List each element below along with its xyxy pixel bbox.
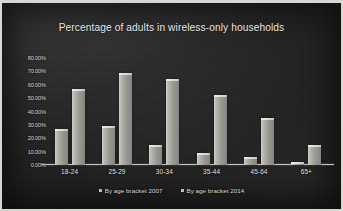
bar: [308, 145, 321, 165]
y-axis-tick-label: 30.00%: [28, 122, 46, 128]
x-axis-tick-label: 25-29: [108, 168, 125, 175]
legend-item[interactable]: By age bracket 2007: [99, 187, 163, 194]
legend-label: By age bracket 2014: [187, 187, 245, 194]
bar-group: [55, 58, 85, 165]
bar: [166, 79, 179, 165]
y-axis-tick-label: 40.00%: [28, 109, 46, 115]
bar-group: [291, 58, 321, 165]
bar-group: [102, 58, 132, 165]
bar-cap: [119, 73, 132, 75]
chart-title: Percentage of adults in wireless-only ho…: [2, 22, 341, 33]
chart-legend: By age bracket 2007By age bracket 2014: [2, 187, 341, 194]
bar: [72, 89, 85, 165]
y-axis-tick-label: 80.00%: [28, 55, 46, 61]
x-axis-line: [41, 164, 334, 165]
bar-cap: [72, 89, 85, 91]
x-axis-tick-label: 30-34: [156, 168, 173, 175]
x-axis: 18-2425-2930-3435-4445-6465+: [46, 168, 330, 179]
bar-group: [244, 58, 274, 165]
y-axis-tick-label: 50.00%: [28, 95, 46, 101]
bar-cap: [166, 79, 179, 81]
bar: [149, 145, 162, 165]
bar: [55, 129, 68, 165]
y-axis-tick-label: 20.00%: [28, 135, 46, 141]
bar-cap: [149, 145, 162, 147]
x-axis-tick-label: 35-44: [203, 168, 220, 175]
bar: [291, 162, 304, 165]
y-axis-tick-label: 10.00%: [28, 149, 46, 155]
bar-cap: [197, 153, 210, 155]
bar-cap: [261, 118, 274, 120]
legend-item[interactable]: By age bracket 2014: [181, 187, 245, 194]
y-axis-tick-label: 0.00%: [31, 162, 46, 168]
y-axis-tick-label: 60.00%: [28, 82, 46, 88]
legend-label: By age bracket 2007: [105, 187, 163, 194]
bar: [214, 95, 227, 165]
bar: [119, 73, 132, 165]
chart-figure: Percentage of adults in wireless-only ho…: [0, 0, 343, 211]
bar-cap: [291, 162, 304, 164]
bar: [244, 157, 257, 165]
legend-swatch-icon: [99, 189, 102, 192]
bar-group: [197, 58, 227, 165]
plot-area: [46, 58, 330, 165]
y-axis: 0.00%10.00%20.00%30.00%40.00%50.00%60.00…: [10, 58, 46, 165]
bar: [197, 153, 210, 165]
chart-canvas: Percentage of adults in wireless-only ho…: [2, 3, 341, 209]
bar-cap: [214, 95, 227, 97]
legend-swatch-icon: [181, 189, 184, 192]
bar-cap: [308, 145, 321, 147]
y-axis-tick-label: 70.00%: [28, 68, 46, 74]
x-axis-tick-label: 65+: [301, 168, 312, 175]
bar-cap: [55, 129, 68, 131]
bar: [261, 118, 274, 165]
bar-cap: [102, 126, 115, 128]
x-axis-tick-label: 18-24: [61, 168, 78, 175]
bar-group: [149, 58, 179, 165]
bar-cap: [244, 157, 257, 159]
x-axis-tick-label: 45-64: [250, 168, 267, 175]
bar: [102, 126, 115, 165]
